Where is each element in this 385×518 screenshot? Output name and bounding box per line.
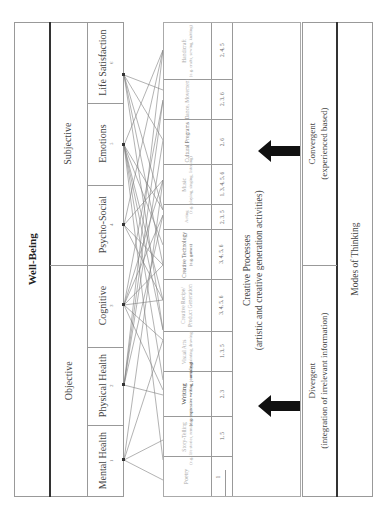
connection-nodes: [122, 73, 125, 461]
convergent-mode: Convergent (experienced based): [302, 22, 336, 265]
divergent-detail: (integration of irrelevant information): [319, 313, 331, 449]
modes-of-thinking-title-cell: Modes of Thinking: [338, 22, 373, 497]
creative-processes-frame: [163, 22, 301, 497]
convergent-arrow-icon: [258, 140, 300, 162]
divergent-label: Divergent: [307, 313, 319, 449]
convergent-label: Convergent: [307, 107, 319, 179]
modes-of-thinking-title: Modes of Thinking: [349, 223, 361, 296]
divergent-arrow-icon: [258, 395, 300, 417]
divergent-mode: Divergent (integration of irrelevant inf…: [302, 265, 336, 497]
convergent-detail: (experienced based): [319, 107, 331, 179]
